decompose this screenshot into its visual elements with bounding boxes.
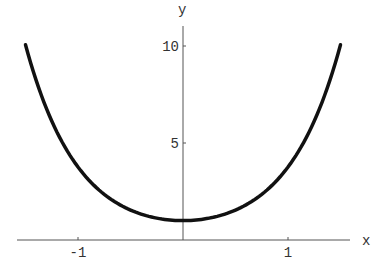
y-ticks: 510 xyxy=(162,39,186,152)
x-ticks: -11 xyxy=(70,237,293,261)
x-axis-label: x xyxy=(362,233,370,249)
plot-area: -11 510 x y xyxy=(0,0,386,275)
x-tick-label: 1 xyxy=(284,245,292,261)
y-tick-label: 10 xyxy=(162,39,179,55)
y-tick-label: 5 xyxy=(171,136,179,152)
x-tick-label: -1 xyxy=(70,245,87,261)
y-axis-label: y xyxy=(178,2,186,18)
